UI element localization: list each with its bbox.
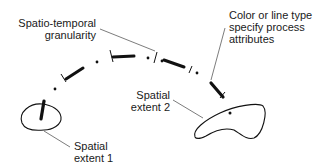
process-segment-2 [66,68,83,79]
extent1-leader [44,131,70,147]
spatial-extent-2-dot [229,112,232,115]
granularity-tick [189,66,192,73]
process-dot [96,61,99,64]
extent2-leader [173,100,203,118]
extent-1-label: Spatial extent 1 [74,140,113,164]
process-segment-4 [164,60,184,67]
granularity-label: Spatio-temporal granularity [14,17,96,41]
process-dot [147,57,150,60]
attributes-leader [211,28,225,80]
extent-2-label: Spatial extent 2 [124,89,170,113]
process-segment-5 [211,83,223,97]
process-dot [196,72,199,75]
process-dot [54,88,57,91]
granularity-tick [154,52,157,63]
spatial-extent-2-shape [195,104,265,138]
process-segment-3 [113,56,134,57]
attributes-label: Color or line type specify process attri… [229,9,312,45]
granularity-leader [100,29,155,51]
